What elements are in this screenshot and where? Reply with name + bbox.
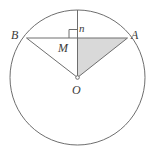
geometry-figure: B A M O n	[0, 0, 151, 150]
right-angle-mark-icon	[69, 30, 78, 39]
geometry-canvas	[0, 0, 151, 150]
center-dot-icon	[76, 76, 80, 80]
point-label-B: B	[11, 29, 18, 41]
point-label-M: M	[58, 42, 68, 54]
segment-BO	[27, 38, 78, 78]
point-label-O: O	[72, 84, 81, 96]
point-label-A: A	[131, 29, 138, 41]
segment-label-n: n	[79, 22, 85, 34]
